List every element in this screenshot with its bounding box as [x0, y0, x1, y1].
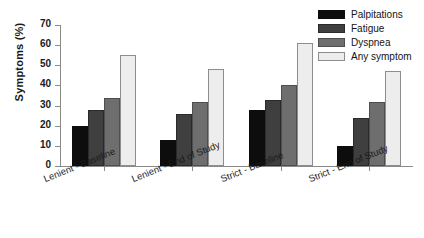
y-axis-tick: 70: [55, 25, 60, 26]
legend-item: Any symptom: [318, 50, 422, 63]
y-axis-tick: 60: [55, 45, 60, 46]
x-axis-tick: [369, 166, 370, 171]
legend-item: Dyspnea: [318, 36, 422, 49]
x-axis-tick: [192, 166, 193, 171]
y-axis-line: [60, 25, 61, 167]
y-axis-tick-label: 10: [40, 139, 51, 150]
bar: [120, 55, 136, 166]
bar: [297, 43, 313, 166]
y-axis-tick-label: 30: [40, 99, 51, 110]
bar-chart: Symptoms (%) 010203040506070 Lenient - B…: [0, 0, 424, 238]
y-axis-tick: 50: [55, 65, 60, 66]
legend-label: Dyspnea: [351, 37, 390, 48]
legend-swatch: [318, 24, 345, 33]
y-axis-tick-label: 60: [40, 38, 51, 49]
chart-legend: PalpitationsFatigueDyspneaAny symptom: [318, 8, 422, 64]
x-axis-tick-label: Lenient - End of Study: [130, 174, 134, 184]
y-axis-tick: 30: [55, 106, 60, 107]
y-axis-tick: 40: [55, 85, 60, 86]
x-axis-tick-label: Strict - Baseline: [219, 174, 223, 184]
x-axis-tick-label: Strict - End of Study: [307, 174, 311, 184]
x-axis-tick-label: Lenient - Baseline: [42, 174, 46, 184]
legend-item: Fatigue: [318, 22, 422, 35]
legend-label: Fatigue: [351, 23, 384, 34]
legend-item: Palpitations: [318, 8, 422, 21]
legend-swatch: [318, 52, 345, 61]
y-axis-tick-label: 70: [40, 18, 51, 29]
y-axis-tick-label: 50: [40, 58, 51, 69]
legend-label: Palpitations: [351, 9, 403, 20]
y-axis-tick-label: 40: [40, 78, 51, 89]
y-axis-tick: 10: [55, 146, 60, 147]
y-axis-tick-label: 20: [40, 119, 51, 130]
y-axis-title: Symptoms (%): [13, 7, 25, 117]
legend-label: Any symptom: [351, 51, 412, 62]
x-axis-tick: [104, 166, 105, 171]
legend-swatch: [318, 38, 345, 47]
y-axis-tick: 20: [55, 126, 60, 127]
legend-swatch: [318, 10, 345, 19]
x-axis-tick: [281, 166, 282, 171]
y-axis-tick-label: 0: [45, 159, 51, 170]
